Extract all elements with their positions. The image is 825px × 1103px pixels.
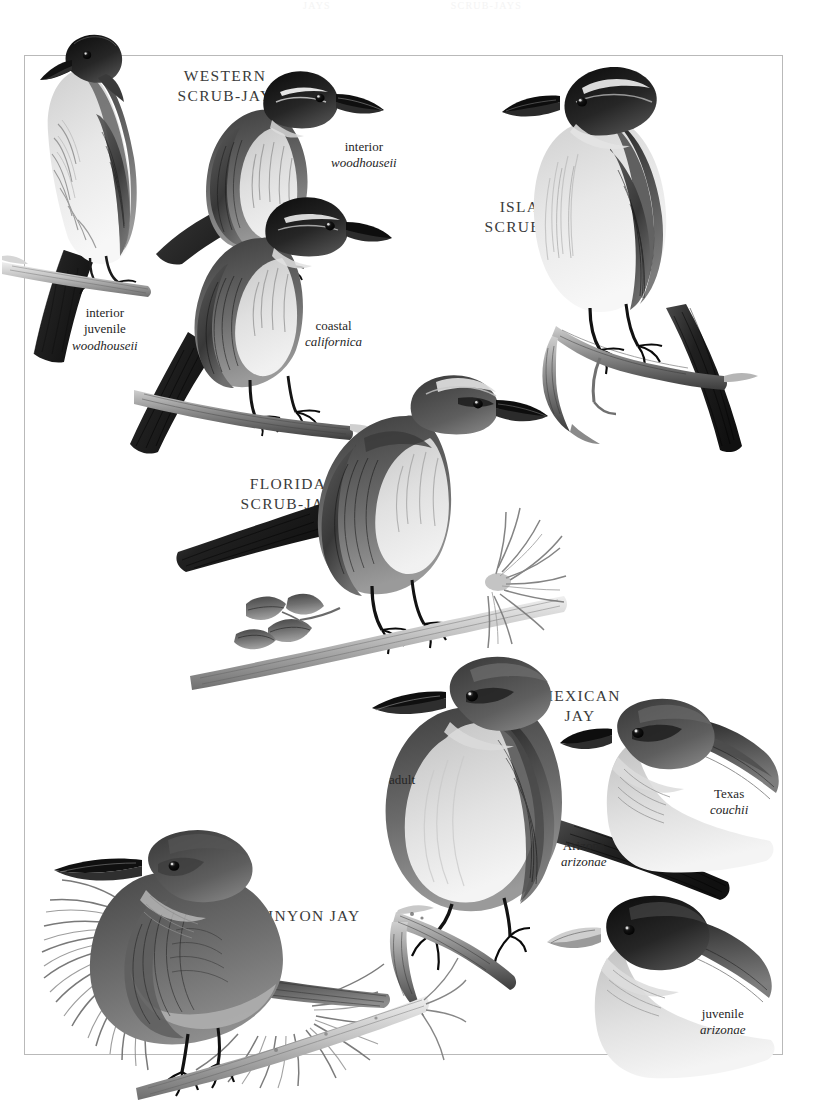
caption-line-1: interior (331, 139, 397, 155)
caption-line-1: coastal (305, 318, 362, 334)
caption-scientific: couchii (710, 802, 748, 818)
running-head-left: JAYS (303, 0, 331, 14)
figure-mexican-jay-juvenile (545, 890, 785, 1080)
caption-mexican-texas: Texas couchii (710, 786, 748, 819)
caption-line-1: adult (389, 772, 415, 788)
caption-line-1: juvenile (700, 1006, 746, 1022)
caption-mexican-juvenile: juvenile arizonae (700, 1006, 746, 1039)
figure-mexican-jay-texas (560, 695, 790, 875)
field-guide-plate: JAYS SCRUB-JAYS (0, 0, 825, 1103)
running-head-right: SCRUB-JAYS (451, 0, 522, 14)
caption-line-1: Texas (710, 786, 748, 802)
running-head: JAYS SCRUB-JAYS (0, 0, 825, 14)
caption-scientific: woodhouseii (331, 155, 397, 171)
caption-western-coastal: coastal californica (305, 318, 362, 351)
figure-florida-scrub-jay (150, 368, 570, 698)
caption-scientific: arizonae (700, 1022, 746, 1038)
caption-western-interior: interior woodhouseii (331, 139, 397, 172)
caption-scientific: californica (305, 334, 362, 350)
caption-mexican-adult: adult (389, 772, 415, 788)
figure-pinyon-jay (26, 838, 466, 1088)
